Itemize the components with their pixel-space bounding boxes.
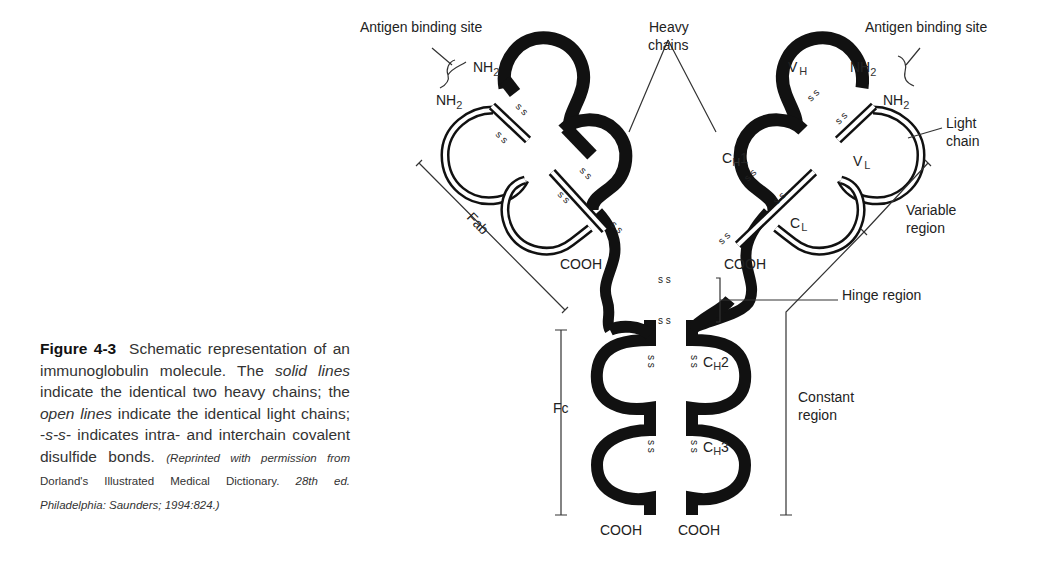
light-chain-label-line2: chain — [946, 133, 979, 149]
svg-text:NH2: NH2 — [436, 92, 462, 111]
antigen-binding-site-left-label: Antigen binding site — [360, 19, 482, 35]
svg-text:COOH: COOH — [600, 522, 642, 538]
ch2-label: CH2 — [703, 354, 729, 372]
svg-text:s s: s s — [658, 274, 671, 285]
svg-text:s s: s s — [494, 129, 511, 146]
constant-region-label-line1: Constant — [798, 389, 854, 405]
svg-text:s s: s s — [805, 87, 822, 104]
hinge-region-label: Hinge region — [842, 287, 921, 303]
cl-label: CL — [790, 215, 807, 233]
svg-text:s s: s s — [514, 101, 531, 118]
ch3-label: CH3 — [703, 439, 729, 457]
variable-region-label-line1: Variable — [906, 202, 957, 218]
light-chain-label-line1: Light — [946, 115, 976, 131]
svg-text:s s: s s — [716, 230, 733, 247]
svg-text:s s: s s — [578, 165, 595, 182]
antigen-binding-site-right-label: Antigen binding site — [865, 19, 987, 35]
vh-label: VH — [788, 59, 807, 77]
vl-label: VL — [853, 153, 870, 171]
immunoglobulin-diagram: Antigen binding site Antigen binding sit… — [0, 0, 1061, 562]
fc-heavy-chains — [597, 300, 745, 515]
disulfide-bonds: s s s s s s s s s s s s s s s s s s s s … — [494, 87, 850, 453]
variable-region-label-line2: region — [906, 220, 945, 236]
svg-text:s s: s s — [646, 440, 657, 453]
svg-text:s s: s s — [689, 355, 700, 368]
heavy-chains-label-line1: Heavy — [649, 19, 689, 35]
fc-label: Fc — [553, 400, 569, 416]
svg-text:COOH: COOH — [560, 256, 602, 272]
constant-region-label-line2: region — [798, 407, 837, 423]
svg-text:NH2: NH2 — [473, 59, 499, 78]
svg-text:s s: s s — [658, 315, 671, 326]
svg-text:s s: s s — [689, 440, 700, 453]
svg-text:s s: s s — [646, 355, 657, 368]
svg-text:COOH: COOH — [724, 256, 766, 272]
heavy-chains-label-line2: chains — [648, 37, 688, 53]
light-chains — [445, 106, 921, 251]
svg-text:s s: s s — [833, 110, 850, 127]
svg-text:COOH: COOH — [678, 522, 720, 538]
